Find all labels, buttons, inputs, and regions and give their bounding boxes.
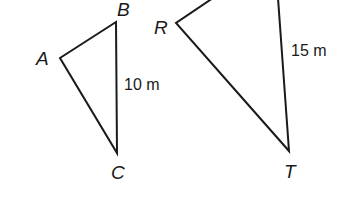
side-bc-length: 10 m [124, 76, 160, 93]
vertex-label-b: B [117, 0, 130, 20]
similar-triangles-figure: B A C 10 m R T 15 m [0, 0, 338, 214]
vertex-label-r: R [154, 17, 168, 38]
vertex-label-a: A [35, 48, 49, 69]
triangle-rst [176, 0, 289, 151]
diagram-svg: B A C 10 m R T 15 m [0, 0, 338, 214]
side-st-length: 15 m [291, 42, 327, 59]
vertex-label-c: C [111, 162, 125, 183]
triangle-abc [60, 22, 117, 153]
vertex-label-t: T [284, 161, 297, 182]
